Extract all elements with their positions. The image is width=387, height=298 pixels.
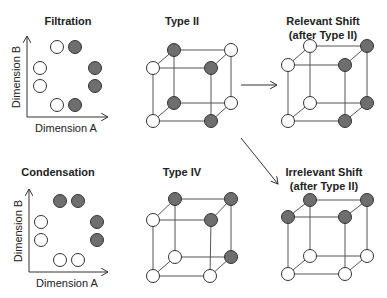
type-iv-cube	[147, 193, 238, 283]
filled-point	[54, 195, 67, 208]
cube-node-btr	[361, 40, 374, 53]
irrelevant-shift-cube	[282, 194, 374, 281]
irrelevant-shift-subtitle: (after Type II)	[290, 180, 359, 192]
cube-node-ftr	[205, 62, 218, 75]
filtration-x-label: Dimension A	[35, 122, 97, 134]
cube-node-btr	[361, 194, 374, 207]
cube-node-btl	[169, 193, 182, 206]
cube-node-bbr	[361, 97, 374, 110]
cube-node-fbr	[339, 115, 352, 128]
cube-node-fbl	[147, 270, 160, 283]
type-ii-cube	[147, 44, 238, 128]
cube-node-ftr	[339, 211, 352, 224]
filtration-y-label: Dimension B	[10, 46, 22, 108]
filled-point	[72, 195, 85, 208]
empty-point	[51, 99, 64, 112]
filtration-title: Filtration	[44, 15, 91, 27]
cube-node-bbr	[225, 251, 238, 264]
cube-node-bbl	[304, 97, 317, 110]
cube-edge	[210, 220, 211, 276]
cube-node-fbr	[204, 270, 217, 283]
filled-point	[89, 80, 102, 93]
condensation-axes	[29, 189, 108, 272]
condensation-y-label: Dimension B	[12, 200, 24, 262]
filled-point	[69, 99, 82, 112]
arrow-to-irrelevant-shift	[241, 138, 278, 184]
cube-node-bbl	[304, 250, 317, 263]
cube-node-bbl	[169, 251, 182, 264]
cube-node-ftl	[282, 59, 295, 72]
empty-point	[51, 41, 64, 54]
filled-point	[69, 41, 82, 54]
relevant-shift-cube	[282, 40, 374, 128]
cube-node-fbl	[282, 268, 295, 281]
cube-node-btr	[225, 44, 238, 57]
cube-node-fbl	[147, 115, 160, 128]
cube-node-bbl	[168, 97, 181, 110]
cube-node-bbr	[361, 250, 374, 263]
type-iv-title: Type IV	[163, 166, 202, 178]
cube-node-btl	[168, 44, 181, 57]
cube-node-ftr	[205, 214, 218, 227]
cube-node-fbr	[339, 268, 352, 281]
empty-point	[34, 80, 47, 93]
empty-point	[35, 234, 48, 247]
cube-node-ftr	[339, 59, 352, 72]
irrelevant-shift-title: Irrelevant Shift	[285, 166, 362, 178]
empty-point	[35, 216, 48, 229]
cube-node-btr	[225, 193, 238, 206]
empty-point	[54, 254, 67, 267]
filled-point	[89, 62, 102, 75]
condensation-x-label: Dimension A	[36, 277, 98, 289]
filtration-axes	[27, 36, 108, 117]
filled-point	[91, 234, 104, 247]
condensation-points	[35, 195, 104, 267]
filled-point	[91, 216, 104, 229]
type-ii-title: Type II	[165, 15, 199, 27]
cube-node-btl	[304, 40, 317, 53]
empty-point	[34, 62, 47, 75]
cube-node-ftl	[147, 62, 160, 75]
cube-node-fbr	[205, 115, 218, 128]
relevant-shift-subtitle: (after Type II)	[289, 29, 358, 41]
cube-node-btl	[304, 194, 317, 207]
cube-node-fbl	[282, 115, 295, 128]
relevant-shift-title: Relevant Shift	[286, 15, 360, 27]
cube-node-bbr	[225, 97, 238, 110]
filtration-points	[34, 41, 102, 112]
cube-node-ftl	[282, 211, 295, 224]
diagram-canvas: Filtration Type II Relevant Shift (after…	[0, 0, 387, 298]
condensation-title: Condensation	[21, 166, 95, 178]
cube-node-ftl	[147, 214, 160, 227]
empty-point	[72, 254, 85, 267]
